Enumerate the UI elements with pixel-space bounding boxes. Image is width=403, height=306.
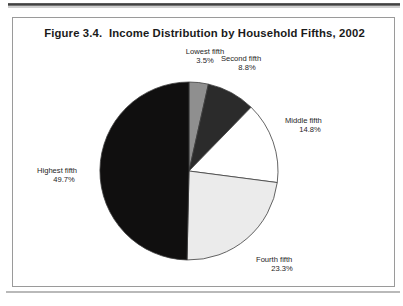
pie-label-fourth-fifth: Fourth fifth 23.3%	[256, 255, 326, 274]
pie-slice-group	[100, 82, 278, 260]
page-bottom-rule	[6, 291, 400, 293]
pie-label-highest-fifth-value: 49.7%	[37, 175, 91, 184]
pie-label-highest-fifth-name: Highest fifth	[37, 166, 99, 175]
pie-label-middle-fifth-name: Middle fifth	[285, 116, 351, 125]
pie-label-fourth-fifth-value: 23.3%	[256, 264, 308, 273]
pie-label-second-fifth-value: 8.8%	[221, 63, 273, 72]
page-top-rule-shadow	[8, 6, 400, 8]
figure-container: Figure 3.4. Income Distribution by House…	[12, 17, 395, 287]
pie-slice	[187, 171, 277, 260]
pie-label-second-fifth-name: Second fifth	[221, 54, 291, 63]
pie-label-second-fifth: Second fifth 8.8%	[221, 54, 291, 73]
pie-slice	[100, 82, 189, 260]
pie-chart: Lowest fifth 3.5% Second fifth 8.8% Midd…	[13, 18, 396, 288]
pie-label-fourth-fifth-name: Fourth fifth	[256, 255, 326, 264]
pie-label-middle-fifth-value: 14.8%	[285, 125, 335, 134]
scanned-page: Figure 3.4. Income Distribution by House…	[0, 0, 403, 306]
pie-label-highest-fifth: Highest fifth 49.7%	[37, 166, 99, 185]
pie-label-middle-fifth: Middle fifth 14.8%	[285, 116, 351, 135]
